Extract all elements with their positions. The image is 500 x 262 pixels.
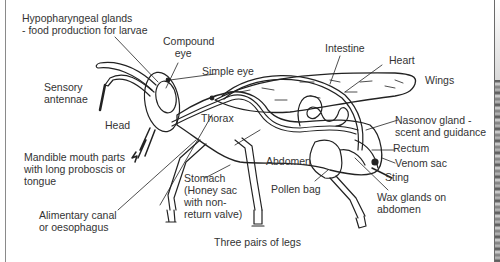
label-mandible-mouth-parts: Mandible mouth parts with long proboscis… — [24, 151, 126, 187]
label-sensory-antennae: Sensory antennae — [44, 81, 88, 105]
label-rectum: Rectum — [393, 142, 429, 154]
label-head: Head — [105, 119, 130, 131]
label-sting: Sting — [385, 171, 409, 183]
label-nasonov-gland: Nasonov gland - scent and guidance — [395, 114, 486, 138]
label-alimentary-canal: Alimentary canal or oesophagus — [39, 209, 117, 233]
label-intestine: Intestine — [325, 42, 365, 54]
label-abdomen: Abdomen — [266, 155, 311, 167]
label-simple-eye: Simple eye — [202, 65, 254, 77]
label-thorax: Thorax — [201, 112, 234, 124]
label-compound-eye: Compound eye — [163, 35, 214, 59]
label-venom-sac: Venom sac — [395, 157, 447, 169]
label-three-pairs-of-legs: Three pairs of legs — [214, 236, 301, 248]
diagram-frame: Hypopharyngeal glands - food production … — [0, 0, 500, 262]
label-stomach: Stomach (Honey sac with non- return valv… — [184, 172, 242, 220]
leader-lines — [115, 37, 398, 210]
label-hypopharyngeal-glands: Hypopharyngeal glands - food production … — [22, 12, 148, 36]
label-wings: Wings — [425, 74, 454, 86]
label-pollen-bag: Pollen bag — [271, 183, 321, 195]
label-wax-glands: Wax glands on abdomen — [377, 191, 446, 215]
label-heart: Heart — [389, 54, 415, 66]
